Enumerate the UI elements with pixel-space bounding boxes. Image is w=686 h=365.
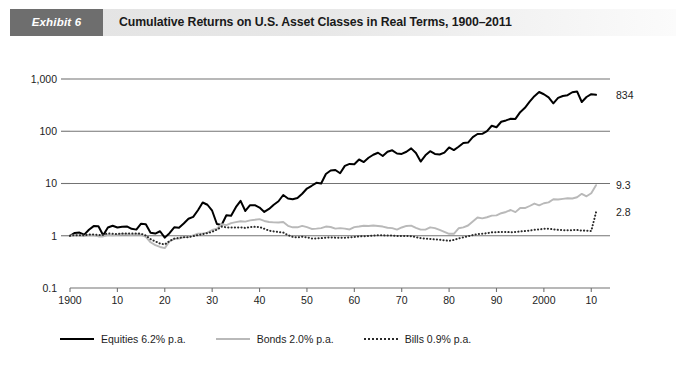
end-label-bills: 2.8 <box>616 206 631 218</box>
legend-label-equities: Equities 6.2% p.a. <box>101 333 186 345</box>
y-axis-label-10: 10 <box>45 177 57 189</box>
legend-swatch-bonds <box>216 338 250 340</box>
legend-swatch-bills <box>364 338 398 340</box>
x-axis-label-1980: 80 <box>443 294 455 306</box>
x-axis-label-1940: 40 <box>254 294 266 306</box>
legend-label-bonds: Bonds 2.0% p.a. <box>257 333 334 345</box>
series-line-bonds <box>70 185 596 248</box>
x-axis-label-1950: 50 <box>301 294 313 306</box>
legend-item-bonds: Bonds 2.0% p.a. <box>216 333 334 345</box>
y-axis-label-1000: 1,000 <box>31 73 57 85</box>
x-axis-label-2000: 2000 <box>532 294 556 306</box>
x-axis-label-1900: 1900 <box>58 294 82 306</box>
x-axis-label-1990: 90 <box>491 294 503 306</box>
y-axis-label-100: 100 <box>39 125 57 137</box>
chart-area: 0.11101001,00019001020304050607080902000… <box>0 0 686 365</box>
legend-label-bills: Bills 0.9% p.a. <box>405 333 472 345</box>
series-line-equities <box>70 91 596 237</box>
chart-legend: Equities 6.2% p.a. Bonds 2.0% p.a. Bills… <box>60 331 471 347</box>
y-axis-label-0.1: 0.1 <box>42 282 57 294</box>
x-axis-label-1960: 60 <box>348 294 360 306</box>
legend-item-equities: Equities 6.2% p.a. <box>60 333 186 345</box>
end-label-equities: 834 <box>616 89 634 101</box>
x-axis-label-2010: 10 <box>585 294 597 306</box>
x-axis-label-1970: 70 <box>396 294 408 306</box>
chart-svg: 0.11101001,00019001020304050607080902000… <box>0 0 686 365</box>
legend-swatch-equities <box>60 338 94 341</box>
y-axis-label-1: 1 <box>51 230 57 242</box>
legend-item-bills: Bills 0.9% p.a. <box>364 333 472 345</box>
x-axis-label-1920: 20 <box>159 294 171 306</box>
x-axis-label-1910: 10 <box>112 294 124 306</box>
end-label-bonds: 9.3 <box>616 179 631 191</box>
x-axis-label-1930: 30 <box>206 294 218 306</box>
